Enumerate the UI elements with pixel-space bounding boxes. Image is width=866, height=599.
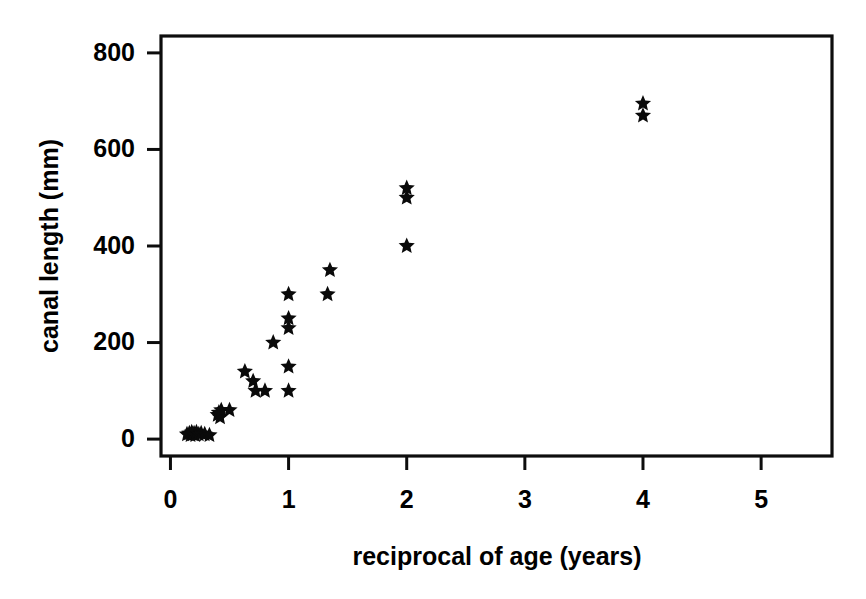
data-point-group [179, 95, 651, 442]
data-point [281, 358, 297, 373]
data-point [237, 363, 253, 378]
scatter-plot: 0200400600800 012345 reciprocal of age (… [0, 0, 866, 599]
data-point [265, 334, 281, 349]
y-axis-title: canal length (mm) [35, 139, 63, 353]
x-axis-tick-label: 3 [518, 485, 532, 513]
data-point [281, 382, 297, 397]
y-axis-tick-label: 0 [121, 424, 135, 452]
y-axis-tick-label: 400 [93, 231, 135, 259]
x-axis-tick-label: 0 [163, 485, 177, 513]
x-axis-tick-label: 1 [282, 485, 296, 513]
data-point [322, 262, 338, 277]
y-axis-tick-label: 600 [93, 134, 135, 162]
x-axis-tick-label: 4 [636, 485, 650, 513]
x-axis-tick-label: 2 [400, 485, 414, 513]
x-axis-tick-label: 5 [754, 485, 768, 513]
figure-container: 0200400600800 012345 reciprocal of age (… [0, 0, 866, 599]
y-axis-tick-label: 800 [93, 38, 135, 66]
x-axis-tick-labels: 012345 [163, 485, 768, 513]
data-point [319, 286, 335, 301]
data-point [635, 107, 651, 122]
y-axis-tick-label: 200 [93, 327, 135, 355]
y-axis-ticks [147, 53, 161, 439]
data-point [281, 286, 297, 301]
data-point [399, 238, 415, 253]
y-axis-tick-labels: 0200400600800 [93, 38, 135, 452]
x-axis-title: reciprocal of age (years) [352, 542, 641, 570]
x-axis-ticks [170, 456, 761, 470]
